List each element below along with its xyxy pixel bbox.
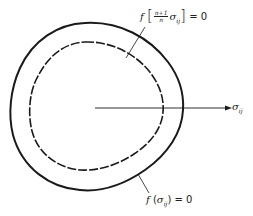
equals-zero: = 0 [189, 11, 207, 22]
inner-surface-label: f [n+1nσij] = 0 [140, 9, 207, 24]
left-bracket: [ [147, 7, 153, 25]
subscript: ij [239, 107, 243, 114]
right-bracket: ] [180, 7, 186, 25]
fraction-denominator: n [154, 17, 169, 23]
axis-label: σij [232, 102, 243, 114]
sigma-symbol: σ [157, 194, 164, 205]
sigma-symbol: σ [232, 101, 239, 112]
fraction: n+1n [154, 10, 169, 23]
inner-yield-surface [30, 42, 164, 170]
equals-zero: = 0 [175, 194, 193, 205]
close-paren: ) [167, 194, 171, 205]
func-symbol: f [140, 11, 144, 22]
outer-yield-surface [10, 23, 183, 191]
func-symbol: f [146, 194, 150, 205]
yield-surface-diagram [0, 0, 253, 216]
arrow-head-icon [225, 106, 232, 111]
outer-surface-label: f (σij) = 0 [146, 195, 192, 207]
outer-label-leader [138, 174, 149, 193]
